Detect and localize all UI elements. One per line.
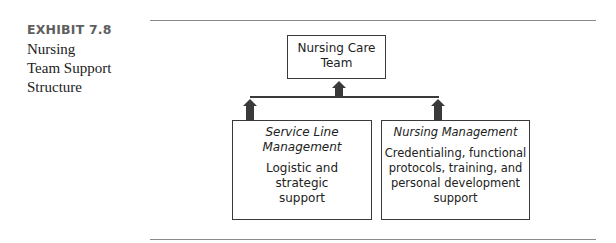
- node-description-line: protocols, training, and: [382, 161, 529, 176]
- node-label-line: Nursing Care: [288, 41, 385, 56]
- node-nursing-management: Nursing Management Credentialing, functi…: [381, 120, 530, 220]
- up-arrow-icon: [431, 99, 445, 120]
- node-nursing-care-team: Nursing Care Team: [287, 35, 386, 79]
- exhibit-title-line: Team Support: [27, 59, 152, 78]
- node-description-line: personal development support: [382, 176, 529, 206]
- exhibit-number: EXHIBIT 7.8: [27, 22, 112, 37]
- node-description-line: Credentialing, functional: [382, 146, 529, 161]
- node-heading: Nursing Management: [382, 125, 529, 140]
- node-description: Credentialing, functional protocols, tra…: [382, 146, 529, 206]
- node-heading-line: Nursing Management: [382, 125, 529, 140]
- node-description-line: strategic: [233, 176, 371, 191]
- exhibit-title: Nursing Team Support Structure: [27, 40, 152, 97]
- node-description-line: Logistic and: [233, 161, 371, 176]
- bottom-divider: [150, 239, 596, 240]
- node-heading-line: Service Line: [233, 125, 371, 140]
- up-arrow-icon: [243, 99, 257, 120]
- exhibit-title-line: Structure: [27, 78, 152, 97]
- node-heading: Service Line Management: [233, 125, 371, 155]
- node-description: Logistic and strategic support: [233, 161, 371, 206]
- up-arrow-icon: [332, 81, 346, 96]
- node-label-line: Team: [288, 56, 385, 71]
- exhibit-title-line: Nursing: [27, 40, 152, 59]
- horizontal-connector: [250, 96, 439, 98]
- node-service-line-management: Service Line Management Logistic and str…: [232, 120, 372, 220]
- node-description-line: support: [233, 191, 371, 206]
- node-heading-line: Management: [233, 140, 371, 155]
- top-divider: [150, 20, 596, 21]
